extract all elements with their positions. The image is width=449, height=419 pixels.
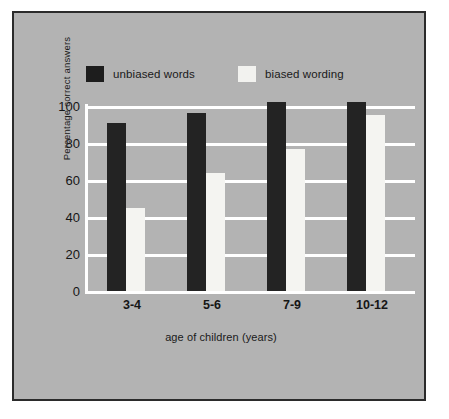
y-tick-label: 0 (46, 284, 80, 299)
x-tick-label: 3-4 (97, 298, 167, 312)
chart-legend: unbiased words biased wording (86, 63, 376, 85)
legend-entry-biased-wording: biased wording (238, 63, 344, 85)
chart-panel: unbiased words biased wording 100 80 60 … (12, 11, 426, 401)
x-tick-label: 10-12 (337, 298, 407, 312)
y-tick-label: 20 (46, 247, 80, 262)
legend-entry-unbiased-words: unbiased words (86, 63, 195, 85)
bar (286, 149, 305, 291)
y-axis-ticks: 100 80 60 40 20 0 (36, 104, 80, 294)
bar (107, 123, 126, 291)
chart-figure: unbiased words biased wording 100 80 60 … (0, 0, 449, 419)
bar (347, 102, 366, 291)
bars-layer (85, 104, 415, 294)
dark-swatch-icon (86, 66, 104, 82)
x-axis-title: age of children (years) (14, 331, 428, 343)
y-axis-title: Percentage correct answers (61, 0, 72, 199)
y-tick-label: 40 (46, 210, 80, 225)
legend-label: unbiased words (113, 68, 195, 80)
bar (187, 113, 206, 291)
x-axis-ticks: 3-4 5-6 7-9 10-12 (85, 298, 415, 318)
bar (267, 102, 286, 291)
plot-area: unbiased words biased wording 100 80 60 … (14, 13, 428, 403)
bar (126, 208, 145, 291)
legend-label: biased wording (265, 68, 344, 80)
bar (206, 173, 225, 291)
x-tick-label: 7-9 (257, 298, 327, 312)
bar (366, 115, 385, 291)
light-swatch-icon (238, 66, 256, 82)
x-tick-label: 5-6 (177, 298, 247, 312)
